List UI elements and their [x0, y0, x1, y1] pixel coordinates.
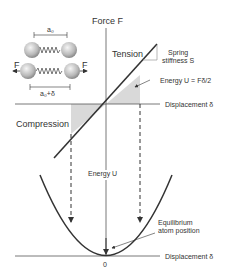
- tension-energy-area: [106, 75, 140, 104]
- stretched-spacing-label: a₀+δ: [40, 90, 55, 97]
- energy-formula-label: Energy U = Fδ/2: [160, 77, 211, 85]
- displacement-label-top: Displacement δ: [165, 101, 213, 109]
- force-right-label: F: [82, 60, 88, 70]
- compression-label: Compression: [16, 119, 69, 129]
- origin-label: 0: [103, 261, 107, 268]
- energy-axis-label: Energy U: [88, 170, 117, 178]
- equilibrium-label-1: Equilibrium: [158, 219, 193, 227]
- stiffness-label-2: stiffness S: [162, 57, 194, 64]
- force-axis-label: Force F: [92, 16, 124, 26]
- force-left-label: F: [14, 60, 20, 70]
- force-energy-diagram: Force F Tension Spring stiffness S Energ…: [0, 0, 238, 278]
- equilibrium-label-2: atom position: [158, 227, 200, 235]
- atom-icon: [64, 63, 80, 79]
- atoms-inset: [13, 32, 87, 90]
- spacing-label: a₀: [47, 26, 54, 33]
- atom-icon: [20, 63, 36, 79]
- atom-icon: [24, 42, 40, 58]
- equilibrium-pointer: [112, 233, 155, 248]
- force-displacement-line: [54, 44, 157, 158]
- stiffness-label-1: Spring: [168, 49, 188, 57]
- tension-label: Tension: [112, 49, 143, 59]
- displacement-label-bottom: Displacement δ: [165, 253, 213, 261]
- atom-icon: [61, 42, 77, 58]
